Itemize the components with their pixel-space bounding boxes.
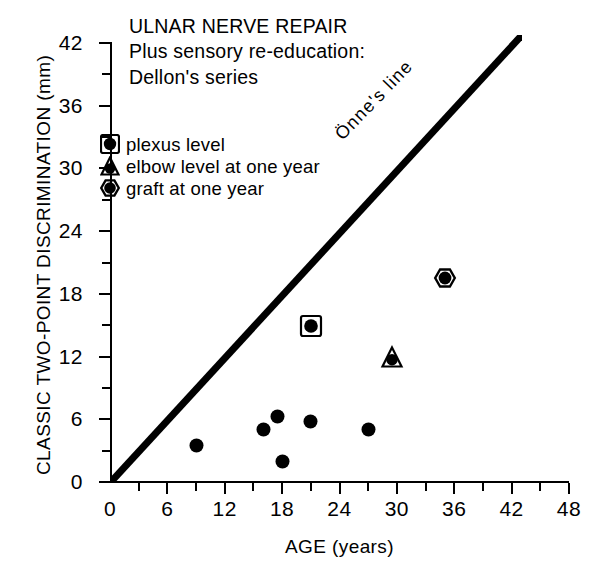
data-point-hexagon-circle (434, 267, 456, 289)
data-point-filled-circle (361, 422, 376, 437)
y-tick-label: 42 (59, 32, 83, 53)
data-point-filled-circle (275, 454, 290, 469)
x-tick-major (396, 483, 398, 494)
y-tick-label: 0 (71, 471, 83, 492)
x-tick-major (166, 483, 168, 494)
x-tick-minor (252, 483, 254, 491)
y-tick-minor (102, 199, 110, 201)
x-tick-label: 30 (374, 498, 420, 519)
x-tick-minor (138, 483, 140, 491)
x-tick-label: 12 (202, 498, 248, 519)
x-tick-label: 18 (259, 498, 305, 519)
y-tick-label: 18 (59, 283, 83, 304)
data-point-filled-circle (256, 422, 271, 437)
y-tick-major (99, 42, 110, 44)
x-tick-minor (482, 483, 484, 491)
y-tick-minor (102, 73, 110, 75)
x-tick-label: 48 (546, 498, 592, 519)
y-axis-spine (110, 42, 112, 483)
data-point-filled-circle (303, 414, 318, 429)
y-tick-major (99, 293, 110, 295)
y-tick-minor (102, 262, 110, 264)
x-tick-minor (310, 483, 312, 491)
y-tick-label: 12 (59, 346, 83, 367)
x-tick-minor (195, 483, 197, 491)
y-tick-major (99, 105, 110, 107)
y-tick-minor (102, 136, 110, 138)
x-tick-label: 42 (489, 498, 535, 519)
y-tick-major (99, 356, 110, 358)
x-tick-minor (367, 483, 369, 491)
data-point-filled-circle (270, 409, 285, 424)
y-axis-title: CLASSIC TWO-POINT DISCRIMINATION (mm) (33, 55, 55, 475)
y-tick-label: 6 (71, 408, 83, 429)
y-tick-minor (102, 387, 110, 389)
x-tick-major (453, 483, 455, 494)
data-point-triangle-circle (381, 346, 403, 368)
x-tick-major (568, 483, 570, 494)
x-tick-label: 24 (317, 498, 363, 519)
y-tick-major (99, 481, 110, 483)
x-tick-label: 0 (87, 498, 133, 519)
x-tick-minor (425, 483, 427, 491)
y-tick-minor (102, 324, 110, 326)
data-point-square-circle (300, 315, 322, 337)
y-tick-label: 24 (59, 220, 83, 241)
x-tick-major (511, 483, 513, 494)
y-tick-minor (102, 450, 110, 452)
data-point-filled-circle (189, 438, 204, 453)
x-tick-label: 36 (431, 498, 477, 519)
x-tick-major (281, 483, 283, 494)
x-tick-label: 6 (144, 498, 190, 519)
x-tick-major (339, 483, 341, 494)
scatter-chart: ULNAR NERVE REPAIR Plus sensory re-educa… (0, 0, 612, 581)
y-tick-major (99, 230, 110, 232)
x-tick-minor (539, 483, 541, 491)
y-tick-label: 30 (59, 157, 83, 178)
x-axis-title: AGE (years) (110, 536, 569, 558)
x-tick-major (224, 483, 226, 494)
y-tick-major (99, 167, 110, 169)
y-tick-label: 36 (59, 95, 83, 116)
y-tick-major (99, 418, 110, 420)
